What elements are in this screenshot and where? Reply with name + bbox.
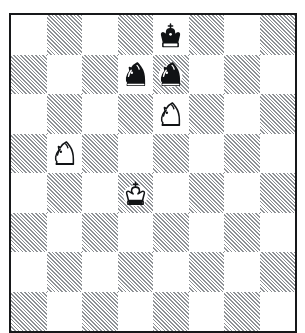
board-square-a6[interactable]: [11, 94, 47, 134]
board-square-a8[interactable]: [11, 15, 47, 55]
chess-board-frame: [9, 13, 297, 333]
board-square-f2[interactable]: [189, 252, 225, 292]
black-knight-icon[interactable]: [118, 55, 154, 95]
board-square-e7[interactable]: [153, 55, 189, 95]
board-square-a2[interactable]: [11, 252, 47, 292]
board-square-b3[interactable]: [47, 213, 83, 253]
black-knight-icon[interactable]: [153, 55, 189, 95]
board-square-e1[interactable]: [153, 292, 189, 332]
white-king-icon[interactable]: [118, 173, 154, 213]
chess-board-grid: [11, 15, 295, 331]
board-square-d5[interactable]: [118, 134, 154, 174]
board-square-f7[interactable]: [189, 55, 225, 95]
board-square-f5[interactable]: [189, 134, 225, 174]
board-square-a5[interactable]: [11, 134, 47, 174]
board-square-a7[interactable]: [11, 55, 47, 95]
board-square-d2[interactable]: [118, 252, 154, 292]
board-square-f1[interactable]: [189, 292, 225, 332]
board-square-b5[interactable]: [47, 134, 83, 174]
board-square-h6[interactable]: [260, 94, 296, 134]
board-square-f4[interactable]: [189, 173, 225, 213]
board-square-g2[interactable]: [224, 252, 260, 292]
board-square-d3[interactable]: [118, 213, 154, 253]
board-square-e6[interactable]: [153, 94, 189, 134]
board-square-a3[interactable]: [11, 213, 47, 253]
board-square-g7[interactable]: [224, 55, 260, 95]
board-square-h5[interactable]: [260, 134, 296, 174]
board-square-c7[interactable]: [82, 55, 118, 95]
board-square-b6[interactable]: [47, 94, 83, 134]
white-knight-icon[interactable]: [47, 134, 83, 174]
board-square-c1[interactable]: [82, 292, 118, 332]
board-square-e5[interactable]: [153, 134, 189, 174]
board-square-e2[interactable]: [153, 252, 189, 292]
board-square-c3[interactable]: [82, 213, 118, 253]
board-square-h7[interactable]: [260, 55, 296, 95]
board-square-c4[interactable]: [82, 173, 118, 213]
board-square-f8[interactable]: [189, 15, 225, 55]
board-square-d4[interactable]: [118, 173, 154, 213]
board-square-e3[interactable]: [153, 213, 189, 253]
board-square-h1[interactable]: [260, 292, 296, 332]
board-square-c8[interactable]: [82, 15, 118, 55]
board-square-c6[interactable]: [82, 94, 118, 134]
board-square-h8[interactable]: [260, 15, 296, 55]
board-square-e4[interactable]: [153, 173, 189, 213]
black-king-icon[interactable]: [153, 15, 189, 55]
board-square-d1[interactable]: [118, 292, 154, 332]
board-square-e8[interactable]: [153, 15, 189, 55]
board-square-c2[interactable]: [82, 252, 118, 292]
board-square-b8[interactable]: [47, 15, 83, 55]
board-square-g3[interactable]: [224, 213, 260, 253]
board-square-b1[interactable]: [47, 292, 83, 332]
board-square-f3[interactable]: [189, 213, 225, 253]
board-square-a4[interactable]: [11, 173, 47, 213]
board-square-b4[interactable]: [47, 173, 83, 213]
board-square-d8[interactable]: [118, 15, 154, 55]
board-square-d7[interactable]: [118, 55, 154, 95]
board-square-g6[interactable]: [224, 94, 260, 134]
board-square-d6[interactable]: [118, 94, 154, 134]
board-square-h3[interactable]: [260, 213, 296, 253]
board-square-g5[interactable]: [224, 134, 260, 174]
board-square-h4[interactable]: [260, 173, 296, 213]
board-square-g8[interactable]: [224, 15, 260, 55]
board-square-g1[interactable]: [224, 292, 260, 332]
board-square-g4[interactable]: [224, 173, 260, 213]
board-square-a1[interactable]: [11, 292, 47, 332]
board-square-b2[interactable]: [47, 252, 83, 292]
board-square-c5[interactable]: [82, 134, 118, 174]
board-square-f6[interactable]: [189, 94, 225, 134]
white-knight-icon[interactable]: [153, 94, 189, 134]
board-square-h2[interactable]: [260, 252, 296, 292]
board-square-b7[interactable]: [47, 55, 83, 95]
